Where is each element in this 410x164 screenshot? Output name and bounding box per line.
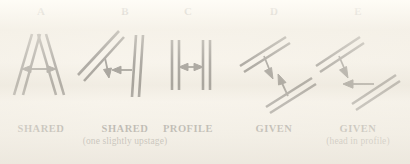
panel-c: C PROFILE [152,0,224,164]
panel-caption-e: GIVEN (head in profile) [306,122,410,147]
panel-e: E [306,0,410,164]
caption-sub-e: (head in profile) [306,135,410,147]
caption-main-e: GIVEN [306,122,410,135]
bar-upper-d [240,37,290,72]
bar-tilted-b [78,31,124,81]
stage-positions-figure: A SHARED [0,0,410,164]
panel-caption-c: PROFILE [152,122,224,135]
caption-main-c: PROFILE [152,122,224,135]
diagram-c [152,24,224,116]
bar-right-a [38,34,64,96]
bar-left-a [14,34,40,96]
bar-lower-e [352,75,400,110]
arrow-down-e [339,56,348,78]
bar-right-c [203,40,210,90]
arrow-left-b [112,66,132,74]
diagram-e [306,24,410,116]
bar-vertical-b [132,35,143,97]
double-arrow-c [179,63,203,70]
arrow-down-upper-d [264,56,273,79]
bar-left-c [172,40,179,90]
double-arrow-a [22,66,56,73]
arrow-left-e [343,80,374,88]
panel-letter-e: E [306,5,410,17]
arrow-down-b [104,58,112,78]
arrow-down-lower-d [278,74,288,96]
bar-upper-e [316,37,364,72]
panel-letter-c: C [152,5,224,17]
